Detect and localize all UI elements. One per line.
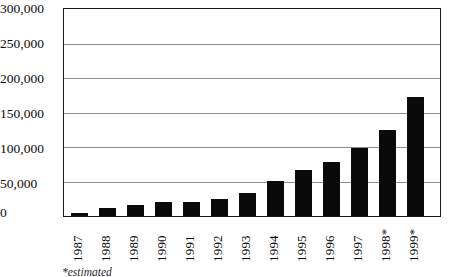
y-axis-tick-label: 250,000 xyxy=(0,37,56,51)
y-axis-tick-label: 0 xyxy=(0,206,56,220)
y-axis-tick-label: 150,000 xyxy=(0,107,56,121)
y-axis-tick-label: 200,000 xyxy=(0,72,56,86)
bar-1992 xyxy=(211,199,228,216)
x-axis-tick-label-1991: 1991 xyxy=(183,216,196,262)
x-axis-labels: 1987 1988 1989 1990 1991 1992 1993 1994 … xyxy=(63,218,441,262)
x-axis-tick-label-1988: 1988 xyxy=(99,216,112,262)
bar-1995 xyxy=(295,170,312,216)
y-axis-tick-label: 100,000 xyxy=(0,142,56,156)
bar-1994 xyxy=(267,181,284,216)
x-axis-tick-label-1994: 1994 xyxy=(267,216,280,262)
x-axis-tick-label-1998: 1998* xyxy=(379,216,392,262)
bar-1989 xyxy=(127,205,144,216)
x-axis-tick-label-1987: 1987 xyxy=(71,216,84,262)
x-axis-tick-label-1989: 1989 xyxy=(127,216,140,262)
y-axis-tick-label: 300,000 xyxy=(0,2,56,16)
x-axis-tick-label-1995: 1995 xyxy=(295,216,308,262)
x-axis-tick-label-1993: 1993 xyxy=(239,216,252,262)
bar-1990 xyxy=(155,202,172,216)
bar-1999 xyxy=(407,97,424,216)
bar-1996 xyxy=(323,162,340,216)
plot-area xyxy=(63,8,441,217)
bar-1997 xyxy=(351,148,368,216)
bar-1991 xyxy=(183,202,200,216)
bar-1993 xyxy=(239,193,256,216)
bar-series xyxy=(64,9,440,216)
bar-1998 xyxy=(379,130,396,216)
bar-1988 xyxy=(99,208,116,216)
chart-screenshot: 300,000 250,000 200,000 150,000 100,000 … xyxy=(0,0,454,277)
y-axis-tick-label: 50,000 xyxy=(0,177,56,191)
x-axis-tick-label-1999: 1999* xyxy=(407,216,420,262)
chart-footnote: *estimated xyxy=(62,266,112,277)
x-axis-tick-label-1992: 1992 xyxy=(211,216,224,262)
x-axis-tick-label-1996: 1996 xyxy=(323,216,336,262)
x-axis-tick-label-1990: 1990 xyxy=(155,216,168,262)
x-axis-tick-label-1997: 1997 xyxy=(351,216,364,262)
